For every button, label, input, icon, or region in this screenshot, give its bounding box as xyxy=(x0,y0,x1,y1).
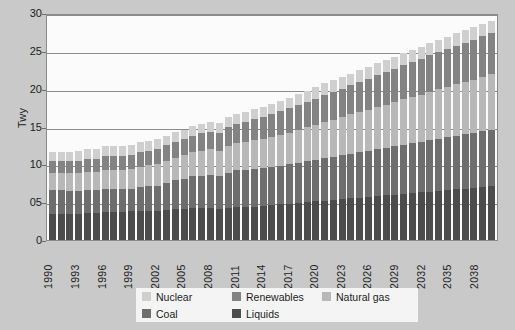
bar-stack[interactable] xyxy=(102,146,109,240)
bar-segment-natural-gas xyxy=(225,146,232,172)
bar-segment-liquids xyxy=(435,191,442,240)
bar-stack[interactable] xyxy=(383,60,390,240)
bar-stack[interactable] xyxy=(268,104,275,240)
bar-stack[interactable] xyxy=(233,114,240,240)
bar-segment-coal xyxy=(277,166,284,205)
bar-stack[interactable] xyxy=(312,87,319,240)
bar-stack[interactable] xyxy=(453,33,460,240)
bar-stack[interactable] xyxy=(242,112,249,240)
bar-segment-liquids xyxy=(119,212,126,240)
bar-stack[interactable] xyxy=(207,122,214,240)
bar-stack[interactable] xyxy=(163,136,170,240)
bar-stack[interactable] xyxy=(181,130,188,240)
bar-stack[interactable] xyxy=(426,43,433,240)
bar-stack[interactable] xyxy=(58,152,65,240)
bar-segment-coal xyxy=(383,148,390,196)
bar-segment-coal xyxy=(462,134,469,188)
legend-swatch-icon xyxy=(142,292,151,301)
bar-stack[interactable] xyxy=(339,77,346,240)
bar-stack[interactable] xyxy=(488,21,495,240)
bar-stack[interactable] xyxy=(374,63,381,240)
bar-stack[interactable] xyxy=(321,83,328,240)
legend-item-nuclear[interactable]: Nuclear xyxy=(142,288,232,305)
bar-stack[interactable] xyxy=(391,57,398,240)
bar-stack[interactable] xyxy=(277,101,284,240)
bar-stack[interactable] xyxy=(84,149,91,240)
bar-segment-coal xyxy=(453,136,460,190)
bar-stack[interactable] xyxy=(75,151,82,240)
bar-stack[interactable] xyxy=(304,91,311,240)
bar-segment-natural-gas xyxy=(418,95,425,142)
bar-segment-liquids xyxy=(304,202,311,240)
bar-segment-coal xyxy=(84,190,91,213)
bar-stack[interactable] xyxy=(462,30,469,240)
bar-segment-coal xyxy=(145,186,152,210)
legend-item-coal[interactable]: Coal xyxy=(142,305,232,322)
bar-segment-nuclear xyxy=(383,60,390,72)
bar-segment-liquids xyxy=(277,204,284,240)
x-tick-label: 2011 xyxy=(229,265,241,289)
bar-stack[interactable] xyxy=(400,53,407,240)
bar-segment-nuclear xyxy=(163,136,170,146)
bar-stack[interactable] xyxy=(198,124,205,240)
bar-stack[interactable] xyxy=(154,139,161,240)
x-tick-label: 2005 xyxy=(175,264,187,289)
bar-segment-natural-gas xyxy=(145,165,152,186)
bar-segment-coal xyxy=(304,161,311,202)
bar-stack[interactable] xyxy=(470,27,477,240)
bar-segment-renewables xyxy=(110,156,117,170)
bar-segment-natural-gas xyxy=(426,92,433,140)
x-tick-label: 2038 xyxy=(468,264,480,289)
bar-stack[interactable] xyxy=(409,50,416,240)
legend-item-natural-gas[interactable]: Natural gas xyxy=(322,288,412,305)
bar-segment-liquids xyxy=(75,214,82,240)
legend-item-renewables[interactable]: Renewables xyxy=(232,288,322,305)
bar-stack[interactable] xyxy=(286,98,293,240)
bar-stack[interactable] xyxy=(444,37,451,240)
legend-item-liquids[interactable]: Liquids xyxy=(232,305,322,322)
bar-segment-nuclear xyxy=(49,152,56,162)
bar-stack[interactable] xyxy=(435,40,442,240)
bar-segment-natural-gas xyxy=(435,89,442,138)
bar-stack[interactable] xyxy=(365,67,372,240)
bar-segment-natural-gas xyxy=(347,114,354,153)
bar-segment-liquids xyxy=(286,204,293,240)
bar-segment-coal xyxy=(339,155,346,199)
bar-segment-coal xyxy=(479,131,486,187)
bar-stack[interactable] xyxy=(251,109,258,240)
bar-segment-renewables xyxy=(233,124,240,144)
bar-stack[interactable] xyxy=(356,70,363,240)
bar-stack[interactable] xyxy=(66,152,73,240)
bar-stack[interactable] xyxy=(93,149,100,240)
bar-stack[interactable] xyxy=(347,74,354,240)
bar-stack[interactable] xyxy=(189,126,196,240)
bar-segment-liquids xyxy=(181,209,188,240)
bar-stack[interactable] xyxy=(137,142,144,240)
bar-segment-coal xyxy=(418,142,425,193)
bar-stack[interactable] xyxy=(145,141,152,240)
bar-stack[interactable] xyxy=(418,47,425,240)
bar-stack[interactable] xyxy=(49,152,56,240)
bar-stack[interactable] xyxy=(172,132,179,240)
bar-stack[interactable] xyxy=(479,24,486,240)
bar-stack[interactable] xyxy=(225,117,232,240)
bar-segment-coal xyxy=(470,133,477,188)
bar-stack[interactable] xyxy=(295,94,302,240)
bar-stack[interactable] xyxy=(260,107,267,240)
bar-segment-nuclear xyxy=(233,114,240,124)
legend-swatch-icon xyxy=(142,309,151,318)
bar-stack[interactable] xyxy=(110,146,117,240)
bar-segment-liquids xyxy=(242,207,249,240)
bar-segment-nuclear xyxy=(102,146,109,156)
bar-stack[interactable] xyxy=(128,145,135,240)
bar-segment-nuclear xyxy=(128,145,135,155)
bar-segment-renewables xyxy=(295,105,302,130)
bar-stack[interactable] xyxy=(216,123,223,240)
bar-segment-liquids xyxy=(207,208,214,240)
y-tick-label: 0 xyxy=(16,235,42,246)
bar-segment-coal xyxy=(119,189,126,212)
bar-stack[interactable] xyxy=(119,146,126,240)
bar-stack[interactable] xyxy=(330,80,337,240)
bar-segment-renewables xyxy=(58,161,65,173)
bar-segment-nuclear xyxy=(172,132,179,142)
